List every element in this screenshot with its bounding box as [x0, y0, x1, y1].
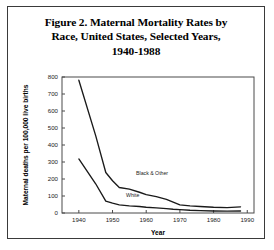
chart-plot-area: 0100200300400500600700800 19401950196019… — [14, 65, 260, 235]
figure-border: Figure 2. Maternal Mortality Rates by Ra… — [7, 6, 265, 239]
y-tick-label: 200 — [48, 175, 59, 182]
y-tick-label: 400 — [48, 141, 59, 148]
series-line-white — [79, 159, 241, 211]
figure-title: Figure 2. Maternal Mortality Rates by Ra… — [18, 15, 254, 58]
y-tick-label: 300 — [48, 158, 59, 165]
x-tick-label: 1980 — [207, 216, 221, 223]
y-tick-label: 600 — [48, 107, 59, 114]
x-tick-label: 1990 — [240, 216, 254, 223]
y-tick-label: 0 — [55, 209, 59, 216]
series-line-black-other — [79, 80, 241, 207]
y-tick-label: 100 — [48, 192, 59, 199]
figure-title-line-1: Figure 2. Maternal Mortality Rates by — [18, 15, 254, 29]
figure-title-line-3: 1940-1988 — [18, 44, 254, 58]
plot-frame — [62, 77, 254, 213]
y-tick-label: 700 — [48, 90, 59, 97]
x-axis-tick-labels: 194019501960197019801990 — [72, 216, 255, 223]
series-label-white: White — [126, 192, 139, 198]
line-chart: 0100200300400500600700800 19401950196019… — [14, 65, 260, 235]
x-tick-label: 1960 — [139, 216, 153, 223]
x-axis-title: Year — [151, 229, 165, 235]
series-inline-labels: Black & OtherWhite — [126, 170, 168, 199]
x-tick-label: 1970 — [173, 216, 187, 223]
y-axis-tick-labels: 0100200300400500600700800 — [48, 73, 59, 216]
series-lines — [79, 80, 241, 211]
x-tick-label: 1950 — [106, 216, 120, 223]
y-tick-label: 500 — [48, 124, 59, 131]
y-axis-title: Maternal deaths per 100,000 live births — [22, 84, 30, 205]
figure-title-line-2: Race, United States, Selected Years, — [18, 29, 254, 43]
y-tick-label: 800 — [48, 73, 59, 80]
series-label-black-other: Black & Other — [136, 170, 168, 176]
x-tick-label: 1940 — [72, 216, 86, 223]
